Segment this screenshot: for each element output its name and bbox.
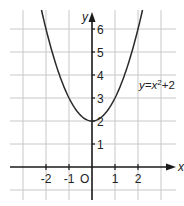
y-tick-label: 4 <box>97 69 104 83</box>
y-axis-label: y <box>81 10 89 24</box>
x-tick-label: -1 <box>64 172 75 186</box>
x-axis-arrow-icon <box>166 164 176 171</box>
x-tick-label: -2 <box>41 172 52 186</box>
y-tick-label: 1 <box>97 138 104 152</box>
origin-label: O <box>80 172 89 186</box>
y-tick-label: 3 <box>97 92 104 106</box>
grid <box>10 10 176 200</box>
ticks: -2-112123456 <box>41 23 142 187</box>
x-axis: x <box>10 160 184 174</box>
equation-label: y=x2+2 <box>138 78 175 91</box>
x-tick-label: 1 <box>112 172 119 186</box>
y-tick-label: 6 <box>97 23 104 37</box>
x-tick-label: 2 <box>135 172 142 186</box>
x-axis-label: x <box>177 160 184 174</box>
parabola-graph: x y -2-112123456 O y=x2+2 <box>0 0 184 206</box>
y-tick-label: 5 <box>97 46 104 60</box>
y-axis-arrow-icon <box>89 12 96 22</box>
